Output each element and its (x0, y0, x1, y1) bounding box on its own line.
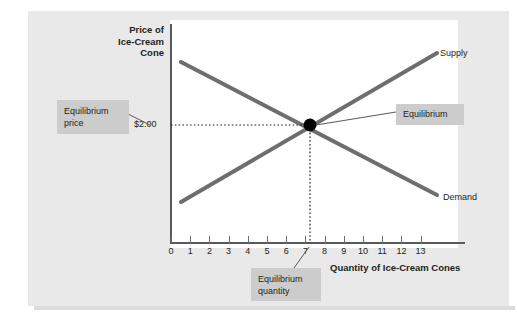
equilibrium-point-callout: Equilibrium (396, 104, 464, 125)
equilibrium-point-marker (304, 119, 317, 132)
equilibrium-price-leader-line (128, 114, 150, 125)
equilibrium-quantity-leader-line (294, 247, 309, 268)
demand-curve-label: Demand (443, 192, 477, 202)
supply-curve-label: Supply (440, 48, 468, 58)
equilibrium-price-callout-line-1: Equilibrium (64, 105, 122, 117)
equilibrium-price-callout: Equilibrium price (57, 100, 129, 134)
equilibrium-price-callout-line-2: price (64, 117, 122, 129)
equilibrium-quantity-callout: Equilibrium quantity (251, 268, 321, 301)
equilibrium-quantity-callout-line-1: Equilibrium (258, 273, 314, 285)
equilibrium-quantity-callout-line-2: quantity (258, 285, 314, 297)
supply-demand-figure: Price of Ice-Cream Cone Quantity of Ice-… (0, 0, 517, 323)
